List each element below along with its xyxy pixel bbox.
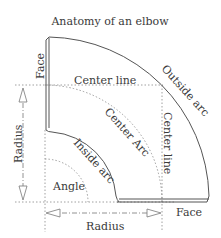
label-angle: Angle (52, 180, 85, 193)
elbow-diagram: Anatomy of an elbow (0, 0, 221, 238)
radius-horizontal-arrow-right (147, 209, 161, 217)
label-face-top: Face (34, 53, 47, 79)
radius-horizontal-arrow-left (46, 209, 60, 217)
label-face-bottom: Face (176, 206, 202, 219)
label-center-line-horizontal: Center line (74, 74, 136, 87)
radius-vertical-arrow-bottom (19, 186, 27, 200)
label-radius-horizontal: Radius (86, 220, 125, 233)
label-inside-arc: Inside arc (71, 136, 118, 186)
diagram-title: Anatomy of an elbow (50, 15, 169, 28)
label-radius-vertical: Radius (12, 124, 25, 163)
radius-vertical-arrow-top (19, 88, 27, 102)
outside-arc (49, 37, 209, 196)
label-center-line-vertical: Center line (161, 112, 174, 174)
label-center-arc: Center Arc (102, 105, 153, 159)
